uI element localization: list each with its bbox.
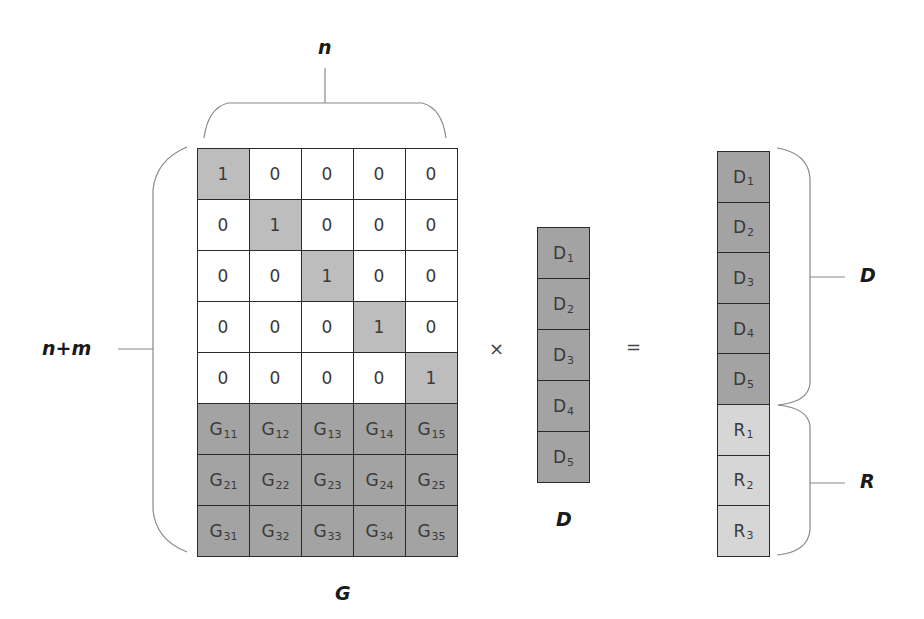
cell-symbol: 1 [322,266,333,286]
identity-cell: 0 [197,199,250,251]
cell-symbol: G [417,419,430,439]
identity-cell: 0 [353,352,406,404]
cell-symbol: G [417,470,430,490]
cell-symbol: G [261,470,274,490]
cell-subscript: 5 [567,456,574,469]
identity-cell: 1 [353,301,406,353]
identity-cell: 0 [197,352,250,404]
right-brace-D [777,148,845,405]
cell-symbol: D [733,319,746,339]
cell-symbol: 0 [374,266,385,286]
generator-cell: G13 [301,403,354,455]
cell-symbol: D [553,396,566,416]
cell-symbol: 0 [270,368,281,388]
cell-symbol: 1 [270,215,281,235]
cell-subscript: 22 [276,479,290,492]
redundancy-cell: R2 [717,455,770,507]
generator-cell: G24 [353,454,406,506]
cell-symbol: 0 [270,164,281,184]
identity-cell: 0 [405,199,458,251]
identity-cell: 1 [249,199,302,251]
identity-cell: 1 [405,352,458,404]
cell-subscript: 12 [276,428,290,441]
cell-symbol: G [261,419,274,439]
left-brace [118,147,187,552]
cell-subscript: 21 [224,479,238,492]
cell-subscript: 34 [380,530,394,543]
cell-symbol: 1 [374,317,385,337]
cell-symbol: G [417,521,430,541]
cell-symbol: G [209,419,222,439]
cell-symbol: 0 [218,266,229,286]
cell-subscript: 4 [567,405,574,418]
cell-subscript: 24 [380,479,394,492]
cell-symbol: G [365,470,378,490]
data-cell: D4 [717,303,770,355]
cell-symbol: 0 [322,215,333,235]
label-D-vector: D [556,508,572,530]
identity-cell: 0 [249,148,302,200]
cell-subscript: 13 [328,428,342,441]
label-n: n [318,36,332,58]
label-R-brace: R [860,470,875,492]
cell-symbol: D [733,167,746,187]
cell-symbol: 1 [218,164,229,184]
top-brace [204,68,446,138]
cell-subscript: 35 [432,530,446,543]
cell-symbol: G [313,521,326,541]
generator-cell: G32 [249,505,302,557]
cell-symbol: G [365,521,378,541]
cell-subscript: 33 [328,530,342,543]
cell-symbol: 0 [218,317,229,337]
cell-symbol: G [209,521,222,541]
cell-symbol: G [365,419,378,439]
braces-layer [0,0,924,619]
identity-cell: 0 [353,148,406,200]
cell-symbol: 0 [270,266,281,286]
cell-symbol: 0 [374,368,385,388]
cell-subscript: 23 [328,479,342,492]
cell-symbol: G [313,470,326,490]
data-cell: D2 [537,278,590,330]
identity-cell: 0 [405,148,458,200]
data-cell: D1 [537,227,590,279]
identity-cell: 0 [197,250,250,302]
data-cell: D3 [717,252,770,304]
cell-symbol: 1 [426,368,437,388]
cell-symbol: 0 [322,317,333,337]
generator-cell: G31 [197,505,250,557]
cell-symbol: G [209,470,222,490]
data-cell: D2 [717,202,770,254]
cell-symbol: 0 [218,215,229,235]
generator-cell: G15 [405,403,458,455]
generator-cell: G11 [197,403,250,455]
redundancy-cell: R3 [717,505,770,557]
cell-symbol: 0 [322,164,333,184]
data-cell: D4 [537,380,590,432]
cell-symbol: R [734,470,746,490]
generator-cell: G33 [301,505,354,557]
cell-symbol: 0 [322,368,333,388]
cell-subscript: 15 [432,428,446,441]
equals-operator: = [626,336,641,357]
identity-cell: 0 [301,301,354,353]
generator-cell: G25 [405,454,458,506]
data-cell: D1 [717,151,770,203]
cell-subscript: 2 [747,226,754,239]
generator-cell: G34 [353,505,406,557]
cell-symbol: 0 [426,317,437,337]
identity-cell: 0 [301,352,354,404]
cell-symbol: D [733,369,746,389]
generator-cell: G12 [249,403,302,455]
cell-subscript: 4 [747,327,754,340]
cell-subscript: 11 [224,428,238,441]
right-brace-R [777,405,845,555]
identity-cell: 0 [249,352,302,404]
identity-cell: 0 [405,250,458,302]
cell-subscript: 3 [746,529,753,542]
redundancy-cell: R1 [717,404,770,456]
cell-subscript: 32 [276,530,290,543]
cell-symbol: D [553,243,566,263]
identity-cell: 0 [353,199,406,251]
cell-symbol: D [733,268,746,288]
